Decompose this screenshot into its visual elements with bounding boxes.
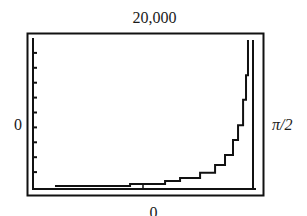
plot-area <box>0 0 307 216</box>
data-curve <box>55 40 248 186</box>
outer-frame <box>28 34 264 196</box>
